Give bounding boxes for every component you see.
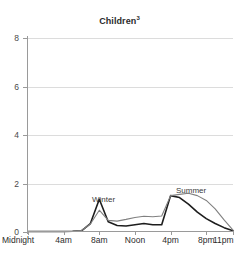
x-tick-mark-3 (135, 231, 136, 235)
gridline-y-6 (28, 87, 233, 88)
x-tick-label-2: 8am (91, 236, 108, 245)
x-tick-mark-0 (28, 231, 29, 235)
chart-title-superscript: 3 (136, 15, 139, 21)
y-tick-label-2: 2 (14, 179, 19, 188)
x-axis-labels: Midnight4am8amNoon4pm8pm11pm (0, 236, 239, 252)
gridline-y-4 (28, 135, 233, 136)
gridline-y-2 (28, 184, 233, 185)
x-tick-label-4: 4pm (162, 236, 179, 245)
x-tick-mark-2 (99, 231, 100, 235)
x-tick-mark-6 (233, 231, 234, 235)
x-tick-label-6: 11pm (213, 236, 234, 245)
x-axis-line (27, 231, 234, 232)
y-tick-label-4: 4 (14, 131, 19, 140)
gridline-y-8 (28, 38, 233, 39)
y-tick-mark-2 (23, 184, 28, 185)
x-tick-mark-4 (171, 231, 172, 235)
series-label-winter: Winter (92, 196, 115, 204)
series-line-winter (28, 196, 233, 232)
y-tick-mark-8 (23, 38, 28, 39)
y-tick-mark-6 (23, 87, 28, 88)
y-tick-label-6: 6 (14, 82, 19, 91)
plot-area (28, 38, 233, 232)
y-tick-label-8: 8 (14, 34, 19, 43)
x-tick-label-1: 4am (55, 236, 72, 245)
x-tick-mark-1 (64, 231, 65, 235)
x-tick-label-0: Midnight (2, 236, 34, 245)
series-label-summer: Summer (176, 187, 206, 195)
x-tick-mark-5 (206, 231, 207, 235)
y-tick-mark-4 (23, 135, 28, 136)
y-axis-labels: 02468 (0, 0, 26, 258)
x-tick-label-3: Noon (125, 236, 145, 245)
chart-title-text: Children (99, 16, 136, 26)
chart-title: Children3 (0, 15, 239, 26)
chart-container: Children3 02468 Midnight4am8amNoon4pm8pm… (0, 0, 239, 258)
gridline-y-0 (28, 232, 233, 233)
